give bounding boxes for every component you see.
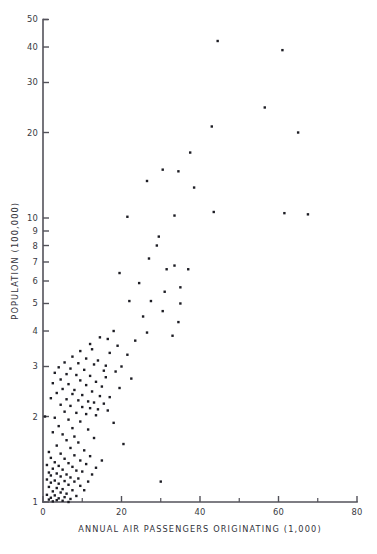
data-point <box>77 362 79 364</box>
data-point <box>283 212 285 214</box>
y-axis-tick-label: 7 <box>32 257 38 267</box>
data-point <box>79 420 81 422</box>
data-point <box>52 431 54 433</box>
data-point <box>126 354 128 356</box>
data-point <box>85 357 87 359</box>
data-point <box>107 409 109 411</box>
data-point <box>61 500 63 502</box>
data-point <box>54 372 56 374</box>
data-point <box>99 336 101 338</box>
data-point <box>61 433 63 435</box>
y-axis: 1234567891020304050 <box>27 14 49 507</box>
data-point <box>79 350 81 352</box>
data-point <box>216 40 218 42</box>
data-point <box>69 447 71 449</box>
data-point <box>89 455 91 457</box>
data-point <box>171 335 173 337</box>
data-point <box>75 412 77 414</box>
data-point <box>46 478 48 480</box>
data-point <box>58 425 60 427</box>
y-axis-tick-label: 6 <box>32 276 38 286</box>
data-point <box>213 211 215 213</box>
data-point <box>56 392 58 394</box>
data-point <box>95 381 97 383</box>
data-point <box>85 463 87 465</box>
data-point <box>89 375 91 377</box>
data-point <box>63 410 65 412</box>
data-point <box>73 389 75 391</box>
data-point <box>179 302 181 304</box>
data-point <box>187 268 189 270</box>
data-point <box>93 401 95 403</box>
data-point <box>146 180 148 182</box>
data-point <box>148 257 150 259</box>
data-point <box>46 494 48 496</box>
data-point <box>193 186 195 188</box>
data-point <box>59 475 61 477</box>
data-point <box>142 315 144 317</box>
data-point <box>97 359 99 361</box>
data-point <box>130 377 132 379</box>
data-point <box>79 485 81 487</box>
data-point <box>173 214 175 216</box>
data-point <box>95 414 97 416</box>
data-point <box>67 462 69 464</box>
y-axis-tick-label: 1 <box>32 497 38 507</box>
y-axis-tick-label: 5 <box>32 298 38 308</box>
data-point <box>69 405 71 407</box>
data-point <box>65 398 67 400</box>
data-point <box>87 400 89 402</box>
data-point <box>118 387 120 389</box>
data-point <box>126 216 128 218</box>
y-axis-tick-label: 2 <box>32 412 38 422</box>
data-point <box>44 415 46 417</box>
data-point <box>50 481 52 483</box>
data-point <box>48 498 50 500</box>
data-point <box>73 454 75 456</box>
data-point <box>179 286 181 288</box>
data-point <box>56 499 58 501</box>
data-point <box>59 491 61 493</box>
data-point <box>58 465 60 467</box>
data-point <box>69 476 71 478</box>
data-point <box>59 452 61 454</box>
data-point <box>173 264 175 266</box>
data-point <box>56 487 58 489</box>
data-point <box>50 397 52 399</box>
data-point <box>112 330 114 332</box>
x-axis-tick-label: 60 <box>273 507 284 517</box>
data-point <box>105 376 107 378</box>
data-point <box>122 443 124 445</box>
data-point <box>79 459 81 461</box>
data-point <box>101 459 103 461</box>
data-point <box>54 461 56 463</box>
plot-svg: 1234567891020304050 020406080 ANNUAL AIR… <box>0 0 377 554</box>
data-point <box>156 244 158 246</box>
data-point <box>101 385 103 387</box>
data-point <box>63 480 65 482</box>
x-axis: 020406080 <box>40 496 362 517</box>
data-point <box>48 451 50 453</box>
data-point <box>162 310 164 312</box>
data-point <box>48 486 50 488</box>
scatter-chart-figure: 1234567891020304050 020406080 ANNUAL AIR… <box>0 0 377 554</box>
data-point <box>56 472 58 474</box>
data-point <box>160 480 162 482</box>
data-point <box>54 479 56 481</box>
data-point <box>61 468 63 470</box>
data-point <box>54 494 56 496</box>
data-point <box>56 444 58 446</box>
data-point <box>83 369 85 371</box>
data-point <box>83 449 85 451</box>
data-point <box>99 395 101 397</box>
data-point <box>67 383 69 385</box>
data-point <box>67 501 69 503</box>
data-point <box>107 338 109 340</box>
y-axis-tick-label: 9 <box>32 226 38 236</box>
data-point <box>81 470 83 472</box>
data-point <box>61 388 63 390</box>
data-point <box>93 437 95 439</box>
data-point <box>189 151 191 153</box>
data-point <box>67 484 69 486</box>
data-point <box>63 496 65 498</box>
